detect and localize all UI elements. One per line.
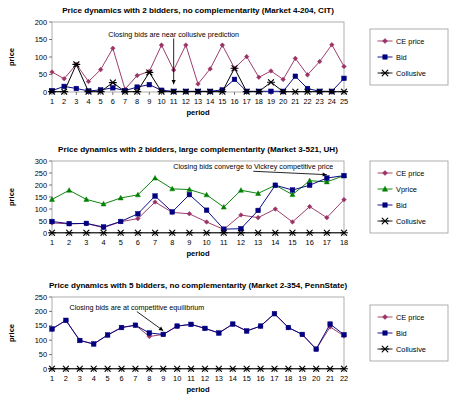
x-tick-label: 8 [135, 97, 139, 106]
annotation-text: Closing bids are near collusive predicti… [108, 30, 239, 39]
y-axis: 050100150200250300 [35, 157, 52, 238]
x-tick-label: 14 [271, 238, 279, 247]
data-point-square [239, 226, 244, 231]
y-axis-title: price [7, 48, 16, 66]
data-point-square [161, 332, 166, 337]
x-tick-label: 24 [328, 97, 336, 106]
y-tick-label: 100 [35, 205, 47, 214]
data-point-square [204, 208, 209, 213]
x-tick-label: 2 [64, 374, 68, 383]
data-point-square [101, 225, 106, 230]
x-tick-label: 1 [50, 97, 54, 106]
data-point-square [342, 76, 347, 81]
chart-market-4-204-cit: Price dynamics with 2 bidders, no comple… [0, 0, 456, 137]
data-point-square [91, 342, 96, 347]
chart-canvas: Price dynamics with 2 bidders, large com… [0, 137, 456, 277]
legend: CE priceVpriceBidCollusive [370, 161, 448, 233]
y-tick-label: 50 [39, 350, 47, 359]
data-point-square [314, 347, 319, 352]
chart-title: Price dynamics with 2 bidders, no comple… [62, 6, 334, 15]
legend-label: CE price [396, 169, 424, 178]
plot-area [52, 161, 344, 233]
y-tick-label: 250 [35, 293, 47, 302]
chart-market-3-521-uh: Price dynamics with 2 bidders, large com… [0, 137, 456, 277]
x-tick-label: 22 [303, 97, 311, 106]
data-point-square [258, 324, 263, 329]
y-axis-title: price [7, 324, 16, 342]
x-tick-label: 10 [173, 374, 181, 383]
data-point-square [272, 311, 277, 316]
x-tick-label: 2 [62, 97, 66, 106]
y-tick-label: 200 [35, 18, 47, 27]
data-point-square [269, 89, 274, 94]
x-tick-label: 17 [270, 374, 278, 383]
y-axis: 050100150200250 [35, 293, 52, 374]
y-tick-label: 300 [35, 157, 47, 166]
legend-label: Bid [396, 201, 407, 210]
legend-label: Collusive [396, 217, 426, 226]
x-tick-label: 3 [84, 238, 88, 247]
y-axis: 050100150200 [35, 18, 52, 97]
data-point-square [105, 333, 110, 338]
data-point-square [325, 176, 330, 181]
data-point-square [203, 326, 208, 331]
data-point-square [383, 203, 387, 207]
x-tick-label: 23 [316, 97, 324, 106]
data-point-square [300, 332, 305, 337]
x-tick-label: 9 [147, 97, 151, 106]
x-tick-label: 9 [161, 374, 165, 383]
data-point-square [84, 221, 89, 226]
x-tick-label: 5 [99, 97, 103, 106]
data-point-square [342, 332, 347, 337]
chart-canvas: Price dynamics with 5 bidders, no comple… [0, 277, 456, 412]
x-tick-label: 15 [243, 374, 251, 383]
y-tick-label: 0 [43, 365, 47, 374]
x-tick-label: 9 [187, 238, 191, 247]
x-tick-label: 5 [106, 374, 110, 383]
x-tick-label: 8 [147, 374, 151, 383]
data-point-square [118, 219, 123, 224]
x-tick-label: 19 [298, 374, 306, 383]
data-point-square [175, 324, 180, 329]
x-tick-label: 4 [101, 238, 105, 247]
x-tick-label: 4 [86, 97, 90, 106]
y-tick-label: 200 [35, 307, 47, 316]
legend-label: Bid [396, 53, 407, 62]
x-tick-label: 10 [157, 97, 165, 106]
data-point-square [286, 325, 291, 330]
data-point-square [147, 82, 152, 87]
x-axis-title: period [186, 249, 210, 258]
x-tick-label: 1 [50, 238, 54, 247]
data-point-square [50, 219, 55, 224]
data-point-square [153, 194, 158, 199]
data-point-square [187, 192, 192, 197]
data-point-square [342, 173, 347, 178]
x-tick-label: 2 [67, 238, 71, 247]
legend-label: Collusive [396, 69, 426, 78]
legend: CE priceBidCollusive [370, 305, 448, 361]
x-tick-label: 11 [187, 374, 195, 383]
legend-label: CE price [396, 313, 424, 322]
chart-title: Price dynamics with 2 bidders, large com… [58, 145, 338, 154]
x-axis: 1234567891011121314151617181920212223242… [50, 92, 348, 106]
x-tick-label: 20 [279, 97, 287, 106]
x-axis: 123456789101112131415161718 [50, 233, 348, 247]
data-point-square [328, 322, 333, 327]
x-tick-label: 18 [340, 238, 348, 247]
x-axis-title: period [186, 108, 210, 117]
x-tick-label: 12 [201, 374, 209, 383]
legend-label: Bid [396, 329, 407, 338]
x-tick-label: 17 [323, 238, 331, 247]
x-tick-label: 6 [136, 238, 140, 247]
chart-title: Price dynamics with 5 bidders, no comple… [49, 281, 348, 290]
x-tick-label: 3 [78, 374, 82, 383]
x-tick-label: 12 [237, 238, 245, 247]
x-tick-label: 15 [288, 238, 296, 247]
x-tick-label: 6 [111, 97, 115, 106]
y-tick-label: 200 [35, 181, 47, 190]
data-point-square [67, 221, 72, 226]
x-tick-label: 7 [153, 238, 157, 247]
x-tick-label: 14 [206, 97, 214, 106]
annotation-text: Closing bids converge to Vickrey competi… [173, 162, 333, 171]
chart-market-2-354-pennstate: Price dynamics with 5 bidders, no comple… [0, 277, 456, 412]
